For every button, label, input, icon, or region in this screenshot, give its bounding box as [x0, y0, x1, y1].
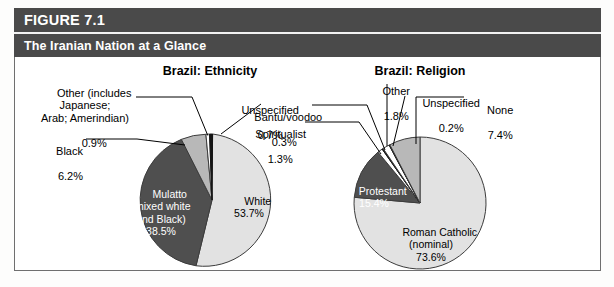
label-mulatto-name: Mulatto (mixed white and Black) — [132, 188, 191, 224]
label-black-ethnicity: Black 6.2% — [21, 132, 83, 195]
figure-number: FIGURE 7.1 — [24, 10, 105, 30]
label-roman-catholic-name: Roman Catholic (nominal) — [402, 226, 477, 250]
label-mulatto-value: 38.5% — [146, 225, 176, 237]
label-none: None 7.4% — [467, 91, 515, 154]
label-white-name: White — [244, 195, 271, 207]
label-other-ethnicity-value: 0.9% — [82, 137, 107, 149]
label-other-ethnicity-name: Other (includes Japanese; Arab; Amerindi… — [41, 87, 132, 124]
label-none-value: 7.4% — [488, 129, 513, 141]
label-unspecified-religion-value: 0.2% — [439, 122, 464, 134]
label-black-ethnicity-name: Black — [56, 145, 83, 157]
charts-container: Brazil: Ethnicity — [15, 58, 600, 270]
label-none-name: None — [487, 104, 513, 116]
label-white: White 53.7% — [218, 183, 280, 232]
label-roman-catholic-value: 73.6% — [416, 251, 446, 263]
label-protestant-name: Protestant — [359, 185, 407, 197]
label-roman-catholic: Roman Catholic (nominal) 73.6% — [379, 214, 483, 270]
label-spiritualist: Spiritualist 1.3% — [237, 115, 305, 178]
label-white-value: 53.7% — [234, 207, 264, 219]
figure-caption: The Iranian Nation at a Glance — [24, 37, 206, 55]
label-spiritualist-name: Spiritualist — [255, 128, 306, 140]
label-black-ethnicity-value: 6.2% — [58, 170, 83, 182]
figure-root: FIGURE 7.1 The Iranian Nation at a Glanc… — [0, 0, 614, 287]
label-spiritualist-value: 1.3% — [268, 153, 293, 165]
leader-other-ethnicity — [136, 97, 208, 136]
label-mulatto: Mulatto (mixed white and Black) 38.5% — [118, 176, 204, 249]
label-protestant-value: 15.4% — [359, 197, 389, 209]
